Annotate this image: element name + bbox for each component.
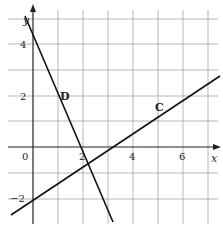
y-tick-2: 2 — [20, 91, 26, 102]
x-tick-2: 2 — [79, 151, 85, 162]
grid — [8, 10, 218, 224]
y-axis-arrow-icon — [30, 4, 36, 12]
y-axis-label: y — [22, 14, 30, 27]
x-axis-label: x — [211, 152, 218, 165]
origin-label: 0 — [22, 151, 28, 162]
y-tick-neg2: −2 — [10, 193, 25, 204]
line-c-label: C — [155, 101, 164, 114]
y-tick-4: 4 — [20, 39, 26, 50]
x-axis-arrow-icon — [213, 144, 221, 150]
x-tick-4: 4 — [129, 151, 135, 162]
line-d — [25, 16, 113, 222]
line-c — [11, 76, 220, 215]
line-d-label: D — [60, 90, 70, 103]
coordinate-plane: y x 0 2 4 6 4 2 −2 D C — [0, 0, 223, 231]
x-tick-6: 6 — [179, 151, 185, 162]
